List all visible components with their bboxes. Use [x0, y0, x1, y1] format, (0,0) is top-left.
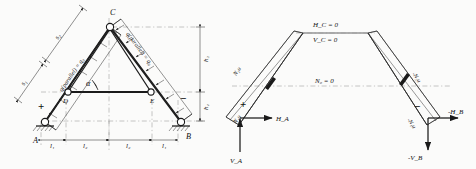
support-hinge-A	[41, 118, 48, 125]
node-label-D: D	[62, 97, 68, 105]
reaction-label-HA: H_A	[275, 115, 290, 123]
figure-root: A B C D E α + − q(parallel) = q₀ q(paral…	[0, 0, 476, 169]
support-hinge-B	[177, 118, 184, 125]
node-label-B: B	[186, 132, 191, 141]
reaction-arrows-B	[428, 118, 458, 150]
node-label-E: E	[149, 97, 155, 105]
frame-members	[45, 27, 181, 122]
dimension-label-h1: h₁	[202, 104, 210, 110]
nf-sign-positive: +	[240, 98, 246, 110]
nf-wedge-right	[368, 31, 440, 125]
sign-positive-left: +	[38, 100, 44, 112]
left-panel-load-system: A B C D E α + − q(parallel) = q₀ q(paral…	[14, 5, 210, 152]
nf-wedge-left	[226, 31, 303, 125]
dimension-label-s1: s₁	[19, 78, 29, 87]
load-label-right-rafter: q(parallel) = q₀	[124, 30, 154, 66]
hinge-C	[106, 23, 113, 30]
dimension-label-l2-left: l₂	[83, 142, 88, 150]
angle-label-alpha: α	[86, 79, 91, 88]
label-HC-zero: H_C = 0	[312, 21, 338, 29]
support-A	[33, 126, 54, 131]
label-N0-zero: N₀ = 0	[314, 77, 334, 85]
hinge-E	[148, 89, 154, 95]
reaction-arrows-A	[240, 118, 272, 152]
hinge-D	[65, 89, 71, 95]
force-label-N1u-right: -N₁u	[406, 117, 417, 129]
support-B	[169, 126, 190, 131]
engineering-figure: A B C D E α + − q(parallel) = q₀ q(paral…	[0, 0, 476, 169]
dimension-label-l1-left: l₁	[50, 142, 54, 150]
nf-sign-negative: −	[414, 100, 420, 112]
reaction-label-VA: V_A	[230, 157, 243, 165]
dimension-label-s2: s₂	[53, 32, 63, 41]
label-VC-zero: V_C = 0	[313, 36, 338, 44]
node-label-C: C	[110, 8, 116, 17]
node-label-A: A	[32, 136, 39, 145]
force-label-N2u-right: -N₂u	[411, 71, 422, 83]
right-panel-normal-force-diagram: H_C = 0 V_C = 0 N₀ = 0 N₂u N₁u -N₂u -N₁u…	[226, 21, 464, 165]
reaction-label-VB: -V_B	[408, 154, 423, 162]
sign-negative-right: −	[180, 92, 186, 104]
dimension-label-l2-right: l₂	[126, 142, 131, 150]
dimension-label-h2: h₂	[202, 56, 210, 63]
reaction-label-HB: -H_B	[448, 108, 464, 116]
dimension-s2	[42, 5, 87, 63]
distributed-load-right	[110, 19, 192, 122]
distributed-load-left	[45, 27, 121, 130]
dimension-label-l1-right: l₁	[162, 142, 166, 150]
force-label-N2u-left: N₂u	[231, 66, 242, 78]
